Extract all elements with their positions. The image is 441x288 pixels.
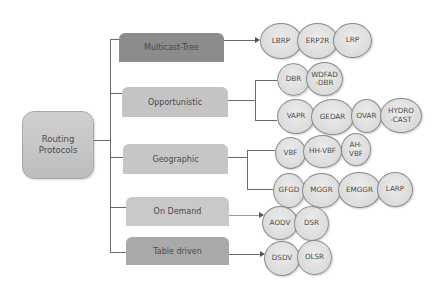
category-label: Opportunistic: [148, 98, 202, 107]
protocol-vbf: VBF: [275, 137, 306, 169]
connector-trunk-ondemand: [110, 207, 126, 208]
connector-trunk-tabledriven: [110, 252, 126, 253]
category-table-driven: Table driven: [126, 237, 229, 265]
connector-opportunistic-row1: [255, 80, 277, 81]
protocol-ovar: OVAR: [351, 99, 382, 133]
connector-root-trunk: [94, 140, 110, 141]
connector-trunk-geographic: [110, 157, 123, 158]
protocol-gfgd: GFGD: [273, 173, 305, 208]
connector-opportunistic: [228, 100, 255, 101]
category-opportunistic: Opportunistic: [122, 87, 228, 117]
connector-trunk-vertical: [110, 39, 111, 253]
category-label: Table driven: [153, 247, 202, 256]
protocol-dsr: DSR: [294, 206, 329, 241]
category-multicast-tree: Multicast-Tree: [119, 33, 224, 62]
category-label: Geographic: [152, 155, 198, 164]
connector-multicast-protocols: [224, 40, 256, 41]
connector-ondemand: [229, 215, 259, 216]
protocol-olsr: OLSR: [297, 240, 332, 275]
protocol-emggr: EMGGR: [338, 172, 381, 208]
connector-trunk-opportunistic: [110, 93, 122, 94]
protocol-vapr: VAPR: [277, 99, 315, 134]
protocol-hh-vbf: HH-VBF: [303, 135, 342, 168]
connector-geographic: [228, 157, 247, 158]
category-label: Multicast-Tree: [144, 43, 199, 52]
protocol-ah-vbf: AH- VBF: [341, 133, 371, 166]
connector-geographic-bracket: [247, 150, 248, 190]
protocol-aodv: AODV: [262, 206, 298, 240]
protocol-gedar: GEDAR: [311, 99, 354, 135]
connector-geographic-row2: [247, 189, 273, 190]
category-on-demand: On Demand: [126, 197, 229, 226]
root-label-line1: Routing: [39, 134, 78, 145]
protocol-hydro-cast: HYDRO -CAST: [380, 98, 422, 133]
protocol-lbrp: LBRP: [260, 23, 302, 59]
protocol-mggr: MGGR: [302, 173, 341, 208]
connector-opportunistic-row2: [255, 120, 277, 121]
protocol-erp2r: ERP2R: [297, 23, 338, 59]
root-label-line2: Protocols: [39, 145, 78, 156]
protocol-lrp: LRP: [333, 23, 372, 58]
category-geographic: Geographic: [123, 144, 228, 174]
category-label: On Demand: [154, 207, 202, 216]
protocol-dsdv: DSDV: [264, 241, 300, 276]
connector-tabledriven: [229, 254, 261, 255]
protocol-wdfad-dbr: WDFAD -DBR: [306, 62, 343, 96]
connector-opportunistic-bracket: [255, 80, 256, 121]
connector-geographic-row1: [247, 150, 275, 151]
root-node-routing-protocols: Routing Protocols: [22, 111, 94, 179]
protocol-larp: LARP: [377, 172, 413, 207]
